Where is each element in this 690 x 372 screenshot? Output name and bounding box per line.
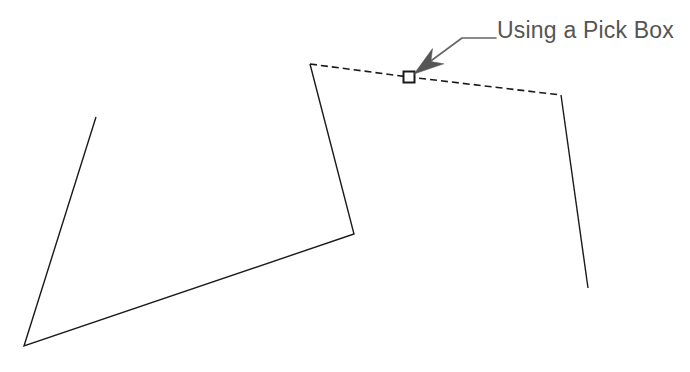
canvas-background — [0, 0, 690, 372]
callout-label: Using a Pick Box — [497, 17, 674, 43]
diagram-canvas: Using a Pick Box — [0, 0, 690, 372]
cad-diagram: Using a Pick Box — [0, 0, 690, 372]
pick-box-marker[interactable] — [404, 72, 415, 83]
